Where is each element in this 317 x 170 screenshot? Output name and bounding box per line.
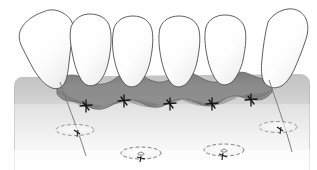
illustration-canvas: [0, 0, 317, 170]
tooth-2: [70, 14, 111, 86]
dental-flap-suture-illustration: Dental implant flap closure with interru…: [0, 0, 317, 170]
tooth-1-distal-left-tilted: [19, 10, 73, 89]
